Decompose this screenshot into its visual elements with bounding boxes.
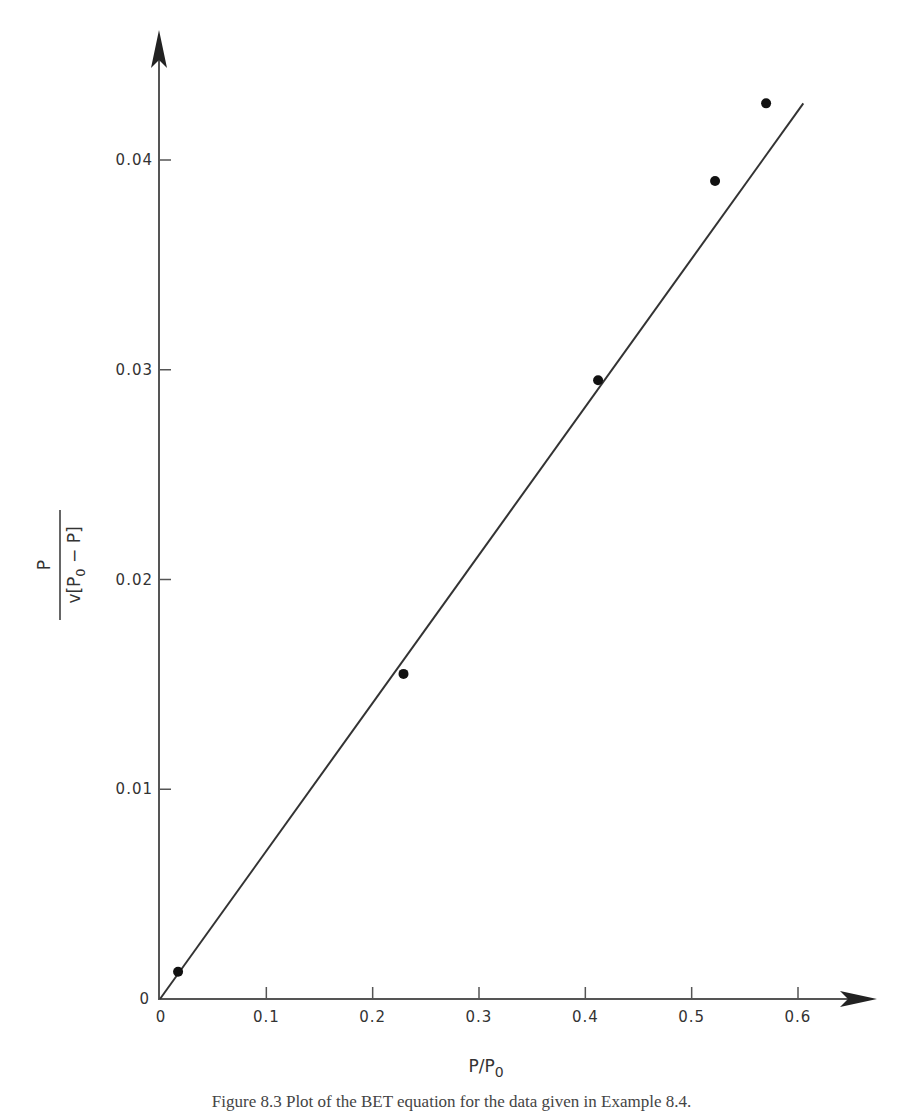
x-tick-label: 0.4 — [572, 1008, 599, 1026]
fit-line — [160, 103, 803, 999]
y-tick-label: 0.02 — [116, 571, 153, 589]
y-tick-label: 0.01 — [116, 780, 153, 798]
x-ticks: 0.10.20.30.40.50.6 — [253, 987, 812, 1026]
data-point-marker — [593, 375, 603, 385]
figure-caption: Figure 8.3 Plot of the BET equation for … — [0, 1092, 903, 1112]
svg-text:v[P0 − P]: v[P0 − P] — [64, 526, 88, 603]
y-axis-label: P v[P0 − P] — [34, 510, 88, 620]
x-tick-label: 0.6 — [785, 1008, 812, 1026]
y-axis — [151, 30, 167, 1000]
x-tick-label: 0.2 — [359, 1008, 386, 1026]
origin-y-label: 0 — [139, 990, 150, 1008]
y-tick-label: 0.04 — [116, 151, 153, 169]
y-ticks: 0.010.020.030.04 — [116, 151, 171, 798]
y-tick-label: 0.03 — [116, 361, 153, 379]
svg-text:P: P — [34, 560, 54, 570]
data-point-marker — [761, 98, 771, 108]
data-point-marker — [710, 176, 720, 186]
x-axis-label: P/P0 — [468, 1056, 503, 1080]
x-tick-label: 0.3 — [466, 1008, 493, 1026]
data-point-marker — [173, 967, 183, 977]
data-points — [173, 98, 771, 976]
x-tick-label: 0.5 — [678, 1008, 705, 1026]
data-point-marker — [399, 669, 409, 679]
x-tick-label: 0.1 — [253, 1008, 280, 1026]
origin-x-label: 0 — [156, 1008, 167, 1026]
